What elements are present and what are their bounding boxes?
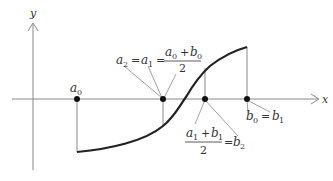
label-a0-b0-fraction: a 0 + b 0 2 — [164, 45, 202, 75]
bisection-diagram: y x a 0 a 2 = a 1 = a 0 + b 0 2 — [0, 0, 333, 181]
svg-text:0: 0 — [197, 52, 202, 61]
svg-text:2: 2 — [200, 144, 207, 157]
svg-text:2: 2 — [240, 142, 245, 151]
point-b0 — [244, 96, 250, 102]
svg-text:+: + — [180, 46, 189, 59]
leader-a1b1 — [195, 100, 205, 124]
svg-text:1: 1 — [218, 133, 223, 142]
leader-a0b0 — [164, 74, 176, 98]
label-a2-a1: a 2 = a 1 = — [116, 53, 165, 69]
svg-text:+: + — [201, 127, 210, 140]
svg-text:=: = — [131, 54, 140, 67]
point-a1 — [160, 96, 166, 102]
leader-a1 — [148, 66, 162, 98]
x-axis-label: x — [322, 93, 329, 106]
svg-text:2: 2 — [123, 60, 128, 69]
svg-text:1: 1 — [279, 116, 284, 125]
svg-text:2: 2 — [179, 62, 186, 75]
point-b2 — [202, 96, 208, 102]
svg-text:0: 0 — [172, 52, 177, 61]
label-b0-b1: b 0 = b 1 — [246, 109, 284, 125]
svg-text:1: 1 — [193, 133, 198, 142]
svg-text:=: = — [261, 110, 270, 123]
label-a1-b1-fraction: a 1 + b 1 2 = b 2 — [185, 126, 245, 157]
y-axis-label: y — [29, 7, 37, 20]
svg-text:=: = — [224, 136, 233, 149]
svg-text:=: = — [156, 54, 165, 67]
label-a0: a 0 — [70, 81, 82, 97]
svg-text:0: 0 — [253, 116, 258, 125]
svg-text:1: 1 — [148, 60, 153, 69]
leader-a2 — [124, 66, 162, 98]
svg-text:0: 0 — [77, 88, 82, 97]
